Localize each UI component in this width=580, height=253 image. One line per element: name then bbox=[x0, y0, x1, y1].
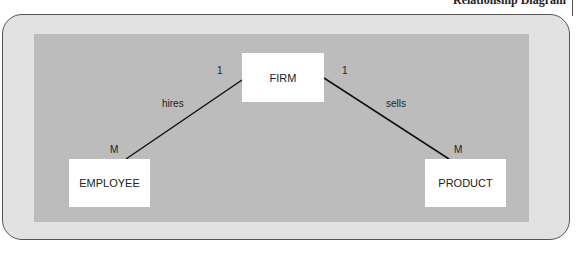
hires-label: hires bbox=[162, 98, 184, 109]
relationship-lines bbox=[0, 0, 580, 253]
sells-product-cardinality: M bbox=[454, 144, 462, 155]
hires-employee-cardinality: M bbox=[110, 144, 118, 155]
entity-product-label: PRODUCT bbox=[438, 177, 492, 189]
entity-firm-label: FIRM bbox=[270, 72, 297, 84]
entity-employee[interactable]: EMPLOYEE bbox=[69, 159, 150, 207]
entity-employee-label: EMPLOYEE bbox=[79, 177, 140, 189]
sells-line bbox=[324, 78, 449, 159]
hires-line bbox=[126, 80, 242, 159]
sells-label: sells bbox=[386, 98, 406, 109]
sells-firm-cardinality: 1 bbox=[342, 65, 348, 76]
hires-firm-cardinality: 1 bbox=[217, 65, 223, 76]
entity-product[interactable]: PRODUCT bbox=[425, 159, 506, 207]
entity-firm[interactable]: FIRM bbox=[242, 53, 324, 102]
